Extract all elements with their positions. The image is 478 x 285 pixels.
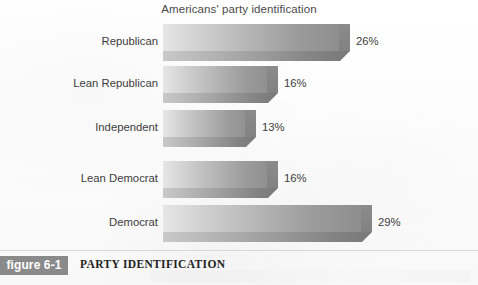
bar-face (163, 161, 278, 188)
chart-row: Republican 26% (0, 24, 478, 66)
figure-caption-band: figure 6-1 PARTY IDENTIFICATION (0, 250, 478, 285)
category-label-lean-democrat: Lean Democrat (0, 172, 158, 184)
bar-bevel (267, 161, 278, 188)
scan-artifact (150, 270, 470, 282)
bar-republican (163, 24, 350, 64)
bar-face (163, 66, 278, 93)
bar-face (163, 24, 350, 51)
bar-lean-republican (163, 66, 278, 106)
bar-bevel (339, 24, 350, 51)
value-label-lean-democrat: 16% (284, 172, 307, 184)
bar-base (163, 232, 372, 242)
bar-bevel (245, 110, 256, 137)
bar-base (163, 188, 278, 198)
figure-page: Americans' party identification Republic… (0, 0, 478, 285)
category-label-independent: Independent (0, 121, 158, 133)
chart-row: Lean Democrat 16% (0, 161, 478, 203)
chart-title: Americans' party identification (0, 3, 478, 15)
value-label-republican: 26% (356, 35, 379, 47)
figure-caption-text: PARTY IDENTIFICATION (80, 258, 225, 270)
category-label-republican: Republican (0, 35, 158, 47)
chart-row: Lean Republican 16% (0, 66, 478, 108)
bar-base (163, 51, 350, 61)
bar-face (163, 205, 372, 232)
bar-face (163, 110, 256, 137)
bar-democrat (163, 205, 372, 245)
bar-lean-democrat (163, 161, 278, 201)
chart-row: Independent 13% (0, 110, 478, 152)
caption-divider (0, 250, 478, 251)
chart-row: Democrat 29% (0, 205, 478, 247)
value-label-lean-republican: 16% (284, 77, 307, 89)
bar-chart-plot-area: Republican 26% Lean Republican 16% Indep… (0, 0, 478, 250)
bar-base (163, 137, 256, 147)
category-label-lean-republican: Lean Republican (0, 77, 158, 89)
value-label-democrat: 29% (378, 216, 401, 228)
bar-bevel (267, 66, 278, 93)
bar-independent (163, 110, 256, 150)
figure-number-tag: figure 6-1 (0, 256, 68, 275)
value-label-independent: 13% (262, 121, 285, 133)
category-label-democrat: Democrat (0, 216, 158, 228)
bar-base (163, 93, 278, 103)
bar-bevel (361, 205, 372, 232)
